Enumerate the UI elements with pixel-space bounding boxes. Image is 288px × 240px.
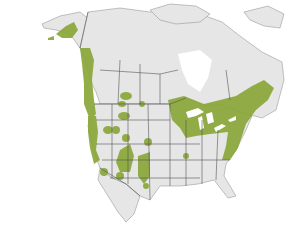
north-america-map (0, 0, 288, 240)
range-map (0, 0, 288, 240)
